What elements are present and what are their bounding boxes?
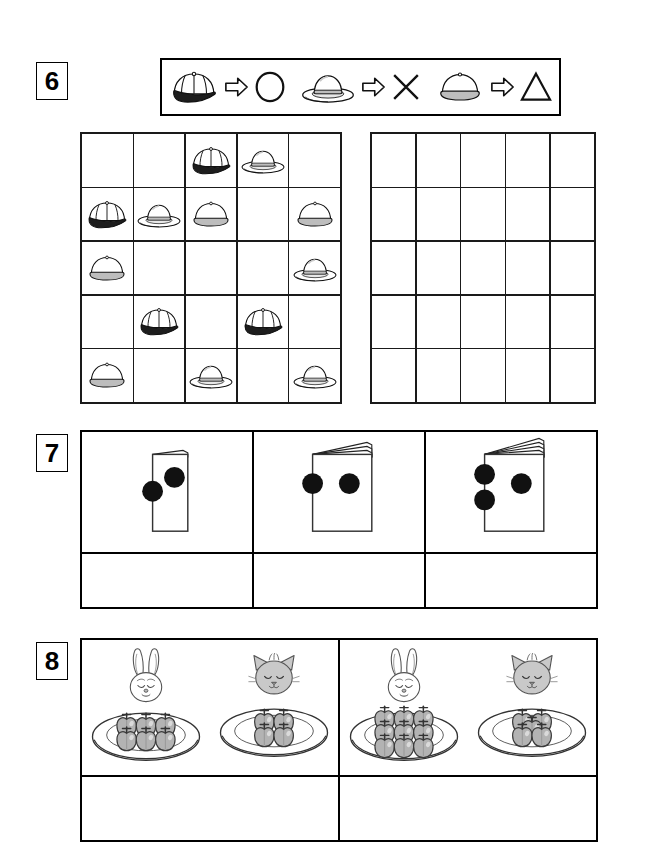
baseball-cap-icon bbox=[168, 69, 220, 105]
hat-cell-r4c3[interactable] bbox=[186, 296, 237, 349]
book-edge-dot bbox=[474, 490, 495, 511]
answer-cell-r1c2[interactable] bbox=[417, 134, 460, 187]
task8-panel-1 bbox=[82, 640, 338, 775]
book-dot bbox=[164, 467, 185, 488]
book-edge-dot bbox=[302, 473, 323, 494]
hat-cell-r2c5[interactable] bbox=[289, 188, 340, 241]
task-number-6: 6 bbox=[36, 62, 68, 100]
open-book-icon bbox=[463, 432, 559, 552]
plate-wrap bbox=[215, 698, 333, 765]
task8-answer-cell-2[interactable] bbox=[338, 777, 596, 840]
animal-apple-group-cat bbox=[473, 650, 591, 765]
task7-answer-row bbox=[82, 554, 596, 607]
hat-cell-r2c4[interactable] bbox=[238, 188, 289, 241]
hat-cell-r3c2[interactable] bbox=[134, 242, 185, 295]
task7-prompt-row bbox=[82, 432, 596, 554]
answer-cell-r1c3[interactable] bbox=[461, 134, 504, 187]
hat-cell-r3c1[interactable] bbox=[82, 242, 133, 295]
baseball-cap-icon bbox=[188, 145, 234, 176]
plate-of-apples bbox=[87, 702, 205, 765]
answer-cell-r3c3[interactable] bbox=[461, 242, 504, 295]
plate-wrap bbox=[345, 702, 463, 769]
hat-cell-r2c2[interactable] bbox=[134, 188, 185, 241]
answer-cell-r4c1[interactable] bbox=[372, 296, 415, 349]
hat-cell-r5c4[interactable] bbox=[238, 349, 289, 402]
task7-answer-cell-1[interactable] bbox=[82, 554, 252, 607]
answer-cell-r3c5[interactable] bbox=[551, 242, 594, 295]
answer-cell-r1c5[interactable] bbox=[551, 134, 594, 187]
task7-prompt-cell-3 bbox=[424, 432, 596, 552]
plate-of-apples bbox=[473, 698, 591, 761]
task8-answer-cell-1[interactable] bbox=[82, 777, 338, 840]
book-edge-dot bbox=[474, 464, 495, 485]
plate-wrap bbox=[87, 702, 205, 769]
answer-cell-r2c4[interactable] bbox=[506, 188, 549, 241]
sun-hat-icon bbox=[187, 361, 235, 390]
sun-hat-icon bbox=[291, 361, 339, 390]
hat-cell-r4c2[interactable] bbox=[134, 296, 185, 349]
hat-cell-r3c4[interactable] bbox=[238, 242, 289, 295]
sun-hat-icon bbox=[299, 69, 357, 105]
hat-cell-r1c4[interactable] bbox=[238, 134, 289, 187]
animal-apple-group-bunny bbox=[87, 646, 205, 769]
answer-cell-r4c3[interactable] bbox=[461, 296, 504, 349]
hat-cell-r1c5[interactable] bbox=[289, 134, 340, 187]
answer-cell-r5c1[interactable] bbox=[372, 349, 415, 402]
baseball-cap-icon bbox=[136, 306, 182, 337]
answer-cell-r5c3[interactable] bbox=[461, 349, 504, 402]
beanie-hat-icon bbox=[84, 360, 130, 391]
hat-cell-r5c5[interactable] bbox=[289, 349, 340, 402]
hat-cell-r1c1[interactable] bbox=[82, 134, 133, 187]
book-dot bbox=[339, 473, 360, 494]
hat-cell-r4c5[interactable] bbox=[289, 296, 340, 349]
beanie-hat-icon bbox=[434, 69, 486, 105]
answer-cell-r2c1[interactable] bbox=[372, 188, 415, 241]
hat-cell-r5c1[interactable] bbox=[82, 349, 133, 402]
plate-wrap bbox=[473, 698, 591, 765]
task8-frame bbox=[80, 638, 598, 842]
hat-cell-r2c1[interactable] bbox=[82, 188, 133, 241]
beanie-hat-icon bbox=[84, 253, 130, 284]
task7-answer-cell-3[interactable] bbox=[424, 554, 596, 607]
answer-cell-r3c4[interactable] bbox=[506, 242, 549, 295]
cat-icon bbox=[246, 650, 302, 700]
answer-cell-r5c4[interactable] bbox=[506, 349, 549, 402]
answer-cell-r2c2[interactable] bbox=[417, 188, 460, 241]
hat-cell-r3c3[interactable] bbox=[186, 242, 237, 295]
answer-cell-r5c2[interactable] bbox=[417, 349, 460, 402]
worksheet-page: 6 7 8 bbox=[0, 0, 660, 866]
sun-hat-icon bbox=[291, 254, 339, 283]
plate-of-apples bbox=[215, 698, 333, 761]
task7-answer-cell-2[interactable] bbox=[252, 554, 424, 607]
answer-cell-r2c5[interactable] bbox=[551, 188, 594, 241]
animal-apple-group-bunny bbox=[345, 646, 463, 769]
hat-cell-r5c2[interactable] bbox=[134, 349, 185, 402]
closed-book-icon bbox=[119, 432, 215, 552]
answer-cell-r3c2[interactable] bbox=[417, 242, 460, 295]
answer-cell-r4c5[interactable] bbox=[551, 296, 594, 349]
answer-cell-r4c4[interactable] bbox=[506, 296, 549, 349]
book-dot bbox=[511, 473, 532, 494]
arrow-right-icon bbox=[224, 76, 249, 98]
hat-cell-r2c3[interactable] bbox=[186, 188, 237, 241]
answer-cell-r5c5[interactable] bbox=[551, 349, 594, 402]
cat-icon bbox=[504, 650, 560, 700]
task8-answer-row bbox=[82, 777, 596, 840]
hat-cell-r5c3[interactable] bbox=[186, 349, 237, 402]
hat-cell-r1c2[interactable] bbox=[134, 134, 185, 187]
hat-cell-r1c3[interactable] bbox=[186, 134, 237, 187]
sun-hat-icon bbox=[239, 146, 287, 175]
bunny-icon bbox=[378, 646, 430, 704]
answer-cell-r4c2[interactable] bbox=[417, 296, 460, 349]
answer-cell-r3c1[interactable] bbox=[372, 242, 415, 295]
answer-cell-r1c4[interactable] bbox=[506, 134, 549, 187]
baseball-cap-icon bbox=[240, 306, 286, 337]
legend-pair-cap-circle bbox=[168, 69, 287, 105]
hat-cell-r3c5[interactable] bbox=[289, 242, 340, 295]
arrow-right-icon bbox=[490, 76, 515, 98]
hat-cell-r4c4[interactable] bbox=[238, 296, 289, 349]
hat-cell-r4c1[interactable] bbox=[82, 296, 133, 349]
bunny-icon bbox=[120, 646, 172, 704]
answer-cell-r2c3[interactable] bbox=[461, 188, 504, 241]
answer-cell-r1c1[interactable] bbox=[372, 134, 415, 187]
